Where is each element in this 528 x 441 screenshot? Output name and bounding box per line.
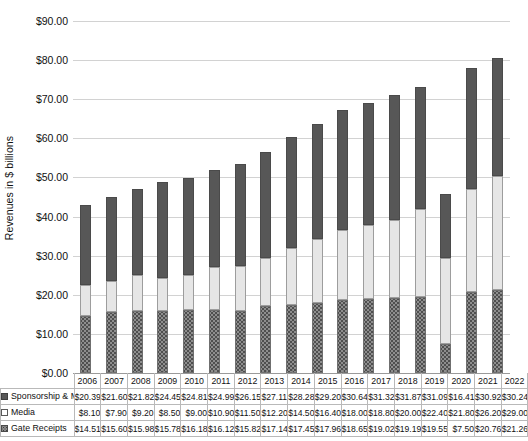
table-value-cell: $7.50 [448, 421, 475, 437]
table-value-cell: $15.98 [127, 421, 154, 437]
bar-segment-media[interactable] [260, 258, 271, 306]
bar-segment-sponsorship[interactable] [312, 124, 323, 238]
table-value-cell: $29.20 [314, 389, 341, 405]
x-axis-tick-mark [214, 369, 215, 373]
bar-column[interactable] [415, 87, 426, 373]
bar-segment-sponsorship[interactable] [209, 170, 220, 268]
bar-segment-gate-receipts[interactable] [106, 312, 117, 373]
table-value-cell: $17.96 [314, 421, 341, 437]
bar-segment-media[interactable] [466, 189, 477, 291]
bar-segment-media[interactable] [440, 258, 451, 343]
bar-column[interactable] [209, 170, 220, 373]
bar-segment-gate-receipts[interactable] [235, 311, 246, 373]
bar-column[interactable] [466, 68, 477, 373]
bar-segment-gate-receipts[interactable] [80, 316, 91, 373]
bar-column[interactable] [492, 58, 503, 373]
bar-column[interactable] [157, 182, 168, 373]
bar-segment-sponsorship[interactable] [466, 68, 477, 189]
bar-segment-gate-receipts[interactable] [312, 303, 323, 373]
table-value-cell: $24.99 [208, 389, 235, 405]
bar-segment-sponsorship[interactable] [183, 178, 194, 275]
table-row: Gate Receipts$14.51$15.60$15.98$15.78$16… [1, 421, 528, 437]
bar-segment-sponsorship[interactable] [132, 189, 143, 274]
x-axis-category-label: 2009 [154, 373, 181, 389]
bar-segment-media[interactable] [80, 285, 91, 317]
bar-segment-media[interactable] [337, 230, 348, 300]
bar-segment-media[interactable] [183, 275, 194, 310]
table-corner-cell [1, 373, 75, 389]
bar-segment-sponsorship[interactable] [286, 137, 297, 248]
legend-entry-sponsorship[interactable]: Sponsorship & Merchandising [1, 389, 75, 405]
bar-segment-sponsorship[interactable] [389, 95, 400, 220]
legend-entry-gate-receipts[interactable]: Gate Receipts [1, 421, 75, 437]
table-value-cell: $31.09 [421, 389, 448, 405]
x-axis-category-label: 2018 [394, 373, 421, 389]
bar-column[interactable] [440, 194, 451, 373]
bar-column[interactable] [312, 124, 323, 373]
bar-segment-media[interactable] [312, 239, 323, 303]
table-value-cell: $15.82 [234, 421, 261, 437]
bar-segment-media[interactable] [492, 176, 503, 289]
bar-segment-sponsorship[interactable] [337, 110, 348, 230]
bar-column[interactable] [337, 110, 348, 373]
bar-column[interactable] [389, 95, 400, 373]
bar-column[interactable] [235, 164, 246, 373]
bar-segment-sponsorship[interactable] [157, 182, 168, 278]
bar-segment-media[interactable] [286, 248, 297, 305]
bar-segment-sponsorship[interactable] [80, 205, 91, 285]
bar-segment-gate-receipts[interactable] [260, 306, 271, 373]
x-axis-category-label: 2020 [448, 373, 475, 389]
plot-area [73, 21, 510, 374]
bar-column[interactable] [132, 189, 143, 373]
bar-segment-gate-receipts[interactable] [363, 299, 374, 373]
bar-segment-gate-receipts[interactable] [466, 292, 477, 373]
bar-segment-gate-receipts[interactable] [209, 310, 220, 373]
table-value-cell: $19.02 [368, 421, 395, 437]
legend-swatch-icon [1, 425, 8, 432]
bar-segment-sponsorship[interactable] [440, 194, 451, 258]
bar-segment-sponsorship[interactable] [415, 87, 426, 209]
bar-segment-gate-receipts[interactable] [415, 297, 426, 373]
x-axis-category-label: 2022 [501, 373, 528, 389]
data-table: 2006200720082009201020112012201320142015… [0, 373, 528, 437]
bar-column[interactable] [363, 103, 374, 373]
bar-segment-gate-receipts[interactable] [337, 300, 348, 373]
bar-segment-sponsorship[interactable] [260, 152, 271, 258]
bar-segment-gate-receipts[interactable] [492, 290, 503, 373]
x-axis-tick-mark [189, 369, 190, 373]
legend-entry-media[interactable]: Media [1, 405, 75, 421]
bar-segment-media[interactable] [363, 225, 374, 299]
bar-segment-sponsorship[interactable] [363, 103, 374, 225]
bar-segment-sponsorship[interactable] [235, 164, 246, 266]
table-value-cell: $16.12 [208, 421, 235, 437]
bar-segment-media[interactable] [209, 267, 220, 310]
bar-column[interactable] [106, 197, 117, 373]
table-value-cell: $16.40 [314, 405, 341, 421]
bar-column[interactable] [183, 178, 194, 374]
bar-column[interactable] [286, 137, 297, 373]
table-value-cell: $9.20 [127, 405, 154, 421]
bar-segment-sponsorship[interactable] [106, 197, 117, 281]
bar-column[interactable] [260, 152, 271, 373]
table-value-cell: $24.81 [181, 389, 208, 405]
bar-segment-gate-receipts[interactable] [389, 298, 400, 373]
x-axis-tick-mark [446, 369, 447, 373]
bar-segment-sponsorship[interactable] [492, 58, 503, 176]
bar-segment-gate-receipts[interactable] [132, 311, 143, 373]
bar-segment-gate-receipts[interactable] [157, 311, 168, 373]
bar-segment-media[interactable] [132, 275, 143, 311]
bar-column[interactable] [80, 205, 91, 373]
bar-segment-media[interactable] [235, 266, 246, 311]
y-axis-tick-label: $40.00 [18, 212, 68, 222]
bar-segment-media[interactable] [157, 278, 168, 311]
bar-segment-media[interactable] [106, 281, 117, 312]
table-value-cell: $18.65 [341, 421, 368, 437]
bar-segment-gate-receipts[interactable] [286, 305, 297, 373]
bar-segment-media[interactable] [415, 209, 426, 297]
x-axis-category-label: 2017 [368, 373, 395, 389]
x-axis-category-label: 2021 [475, 373, 502, 389]
x-axis-tick-mark [137, 369, 138, 373]
bar-segment-media[interactable] [389, 220, 400, 298]
y-axis-title-text: Revenues in $ billions [3, 135, 15, 239]
bar-segment-gate-receipts[interactable] [183, 310, 194, 373]
